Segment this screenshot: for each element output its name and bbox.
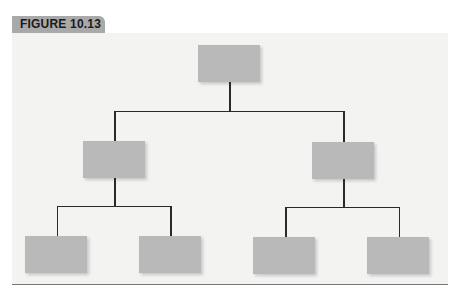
node-leaf-1 <box>25 236 87 273</box>
connector-right-horizontal <box>285 207 400 209</box>
connector-mid-left-down <box>114 178 116 206</box>
connector-mid-left-up <box>114 111 116 141</box>
connector-mid-right-up <box>343 111 345 142</box>
connector-leaf-2-up <box>170 206 172 236</box>
connector-level1-horizontal <box>114 111 344 113</box>
connector-root-down <box>229 82 231 111</box>
node-leaf-4 <box>367 237 429 274</box>
connector-left-horizontal <box>57 206 171 208</box>
connector-mid-right-down <box>343 179 345 207</box>
node-leaf-2 <box>139 236 201 273</box>
node-root <box>198 45 260 82</box>
figure-label: FIGURE 10.13 <box>12 16 105 33</box>
bottom-rule <box>12 284 448 285</box>
connector-leaf-4-up <box>399 207 401 237</box>
connector-leaf-3-up <box>285 207 287 237</box>
connector-leaf-1-up <box>57 206 59 236</box>
node-leaf-3 <box>253 237 315 274</box>
node-mid-left <box>83 141 145 178</box>
node-mid-right <box>312 142 374 179</box>
